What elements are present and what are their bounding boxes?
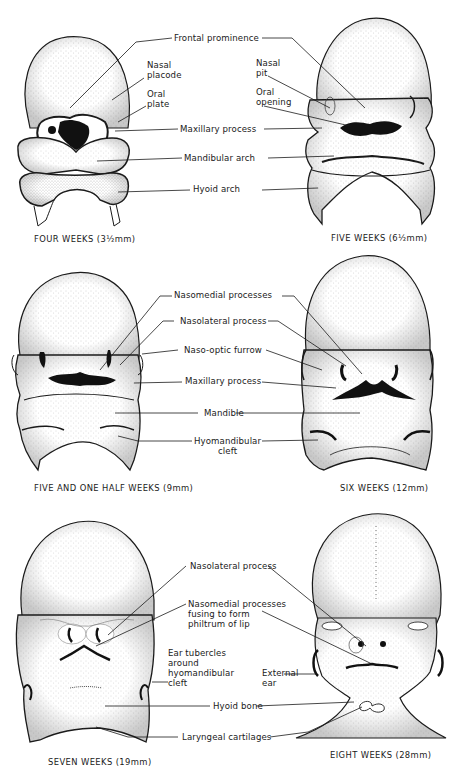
caption-five-and-one-half-weeks: FIVE AND ONE HALF WEEKS (9mm) — [34, 483, 193, 493]
label-nasomedial-fusing-philtrum: Nasomedial processes fusing to form phil… — [188, 599, 286, 629]
label-hyoid-bone: Hyoid bone — [213, 701, 263, 711]
label-maxillary-process-row2: Maxillary process — [185, 376, 261, 386]
label-hyoid-arch: Hyoid arch — [193, 184, 240, 194]
caption-seven-weeks: SEVEN WEEKS (19mm) — [48, 757, 152, 767]
label-naso-optic-furrow: Naso-optic furrow — [184, 345, 262, 355]
label-nasal-placode: Nasal placode — [147, 60, 182, 80]
seven-weeks-embryo-drawing — [16, 521, 154, 742]
five-and-one-half-weeks-embryo-drawing — [12, 273, 143, 470]
caption-four-weeks: FOUR WEEKS (3½mm) — [34, 234, 135, 244]
label-nasal-pit: Nasal pit — [256, 58, 280, 78]
label-laryngeal-cartilages: Laryngeal cartilages — [182, 732, 271, 742]
label-ear-tubercles: Ear tubercles around hyomandibular cleft — [168, 648, 234, 688]
label-mandibular-arch: Mandibular arch — [184, 153, 255, 163]
label-frontal-prominence: Frontal prominence — [174, 33, 259, 43]
six-weeks-embryo-drawing — [302, 256, 433, 470]
label-maxillary-process-row1: Maxillary process — [180, 124, 256, 134]
label-hyomandibular-cleft: Hyomandibular cleft — [194, 436, 261, 456]
caption-eight-weeks: EIGHT WEEKS (28mm) — [330, 750, 431, 760]
embryo-face-development-figure: Frontal prominence Nasal placode Oral pl… — [0, 0, 457, 777]
label-oral-opening: Oral opening — [256, 87, 291, 107]
label-nasomedial-processes: Nasomedial processes — [174, 290, 272, 300]
label-oral-plate: Oral plate — [147, 89, 169, 109]
caption-six-weeks: SIX WEEKS (12mm) — [340, 483, 428, 493]
label-external-ear: External ear — [262, 668, 298, 688]
eight-weeks-embryo-drawing — [296, 514, 446, 738]
label-nasolateral-process-row2: Nasolateral process — [180, 316, 267, 326]
caption-five-weeks: FIVE WEEKS (6½mm) — [331, 233, 427, 243]
five-weeks-embryo-drawing — [306, 18, 435, 224]
label-mandible: Mandible — [204, 408, 244, 418]
label-nasolateral-process-row3: Nasolateral process — [190, 561, 277, 571]
